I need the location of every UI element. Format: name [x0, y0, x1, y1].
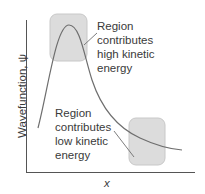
low-kinetic-annotation: Region contributes low kinetic energy	[55, 106, 111, 162]
annotation-line: Region	[97, 19, 155, 33]
annotation-line: low kinetic	[55, 134, 111, 148]
annotation-line: Region	[55, 106, 111, 120]
high-kinetic-annotation: Region contributes high kinetic energy	[97, 19, 155, 75]
annotation-line: energy	[97, 61, 155, 75]
annotation-line: contributes	[55, 120, 111, 134]
x-axis-label: x	[104, 177, 110, 189]
y-axis-label: Wavefunction, ψ	[16, 46, 28, 146]
annotation-line: contributes	[97, 33, 155, 47]
annotation-line: high kinetic	[97, 47, 155, 61]
high-kinetic-region-box	[50, 14, 87, 61]
annotation-line: energy	[55, 148, 111, 162]
